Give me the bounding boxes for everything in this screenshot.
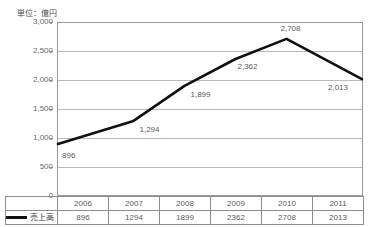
table-header-cell: 2007	[109, 197, 160, 211]
table-header-cell: 2010	[262, 197, 313, 211]
data-table-wrap: 2006 2007 2008 2009 2010 2011 売上高 896	[5, 196, 363, 224]
table-value-cell: 2708	[262, 211, 313, 225]
table-header-cell: 2009	[211, 197, 262, 211]
data-table: 2006 2007 2008 2009 2010 2011 売上高 896	[5, 196, 364, 225]
data-point-label: 896	[62, 152, 75, 160]
y-axis: 05001,0001,5002,0002,5003,000	[0, 0, 53, 196]
table-value-cell: 2013	[313, 211, 364, 225]
table-header-cell: 2006	[58, 197, 109, 211]
y-axis-tick	[49, 167, 53, 168]
table-row-header: 2006 2007 2008 2009 2010 2011	[6, 197, 364, 211]
table-header-cell: 2008	[160, 197, 211, 211]
table-corner-cell	[6, 197, 58, 211]
data-point-label: 2,362	[238, 63, 258, 71]
legend-label: 売上高	[30, 212, 54, 224]
table-value-cell: 2362	[211, 211, 262, 225]
data-point-label: 2,708	[281, 25, 301, 33]
legend-line-swatch-icon	[6, 216, 27, 219]
table-value-cell: 1899	[160, 211, 211, 225]
y-axis-tick	[49, 138, 53, 139]
data-point-label: 2,013	[328, 84, 348, 92]
y-axis-tick	[49, 80, 53, 81]
y-axis-tick	[49, 51, 53, 52]
table-value-cell: 1294	[109, 211, 160, 225]
legend-entry-sales: 売上高	[6, 211, 58, 225]
table-value-cell: 896	[58, 211, 109, 225]
y-axis-tick	[49, 109, 53, 110]
y-axis-tick	[49, 22, 53, 23]
series-sales-line	[57, 22, 363, 196]
data-point-label: 1,294	[140, 126, 160, 134]
table-header-cell: 2011	[313, 197, 364, 211]
table-row-values: 売上高 896 1294 1899 2362 2708 2013	[6, 211, 364, 225]
chart-root: 単位：億円 05001,0001,5002,0002,5003,000 8961…	[0, 0, 373, 227]
data-point-label: 1,899	[191, 91, 211, 99]
